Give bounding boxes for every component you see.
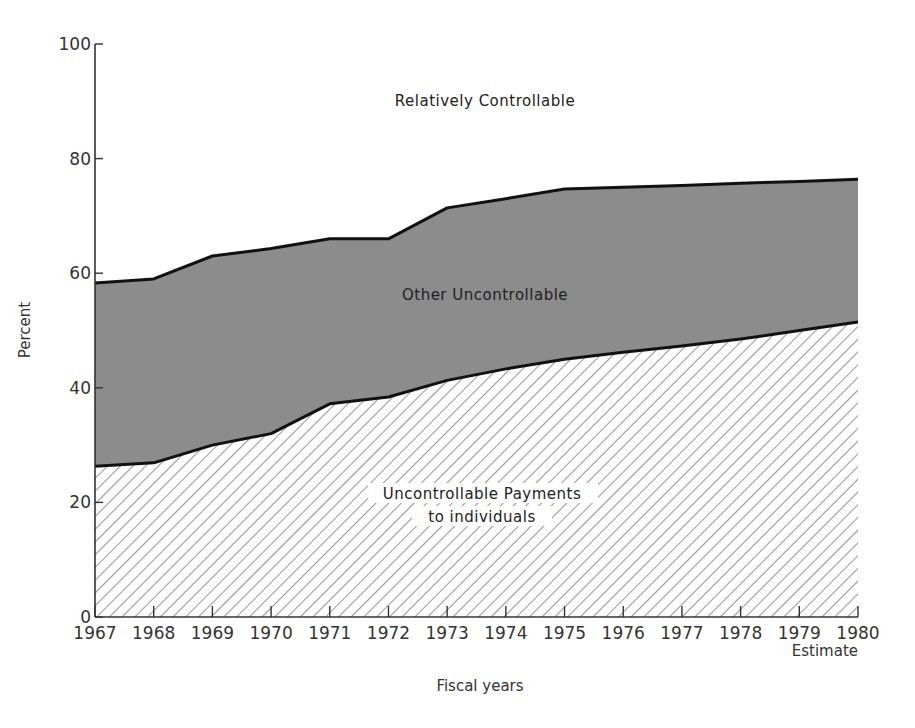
x-tick-label: 1978 bbox=[719, 623, 762, 643]
x-tick-label: 1971 bbox=[308, 623, 351, 643]
x-tick-label: 1980 bbox=[836, 623, 879, 643]
stacked-area-chart: 020406080100 196719681969197019711972197… bbox=[0, 0, 915, 728]
x-tick-label: 1979 bbox=[778, 623, 821, 643]
label-other-uncontrollable: Other Uncontrollable bbox=[402, 286, 568, 304]
y-tick-label: 40 bbox=[69, 378, 91, 398]
x-tick-label: 1977 bbox=[660, 623, 703, 643]
x-tick-label: 1976 bbox=[602, 623, 645, 643]
x-tick-label: 1975 bbox=[543, 623, 586, 643]
x-tick-label: 1967 bbox=[73, 623, 116, 643]
label-relatively-controllable: Relatively Controllable bbox=[395, 92, 575, 110]
x-tick-label: 1969 bbox=[191, 623, 234, 643]
plot-area bbox=[95, 179, 858, 617]
label-uncontrollable-payments-line1: Uncontrollable Payments bbox=[383, 485, 582, 503]
x-tick-label: 1972 bbox=[367, 623, 410, 643]
y-tick-label: 60 bbox=[69, 263, 91, 283]
y-tick-label: 80 bbox=[69, 149, 91, 169]
x-axis-title: Fiscal years bbox=[436, 677, 523, 695]
y-tick-label: 20 bbox=[69, 492, 91, 512]
x-tick-label: 1974 bbox=[484, 623, 527, 643]
x-tick-label: 1968 bbox=[132, 623, 175, 643]
x-note-estimate: Estimate bbox=[792, 642, 858, 660]
y-axis-title: Percent bbox=[16, 302, 34, 359]
x-tick-label: 1970 bbox=[249, 623, 292, 643]
label-uncontrollable-payments-line2: to individuals bbox=[428, 508, 535, 526]
x-tick-label: 1973 bbox=[426, 623, 469, 643]
y-tick-label: 100 bbox=[59, 34, 91, 54]
